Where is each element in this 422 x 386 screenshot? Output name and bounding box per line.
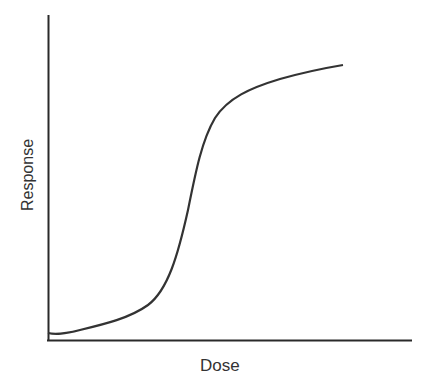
chart-canvas — [0, 0, 422, 386]
dose-response-curve — [48, 65, 343, 334]
y-axis-label: Response — [19, 151, 37, 211]
x-axis-label: Dose — [200, 356, 240, 376]
